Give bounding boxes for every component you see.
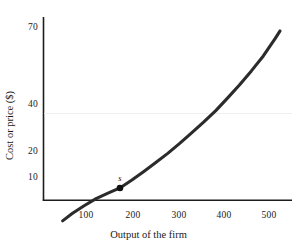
y-tick-label-10: 10 bbox=[16, 172, 38, 182]
data-point-s-marker bbox=[117, 185, 124, 192]
y-tick-label-20: 20 bbox=[16, 146, 38, 156]
y-tick-label-70: 70 bbox=[16, 22, 38, 32]
cost-curve bbox=[63, 31, 280, 221]
data-point-s-label: s bbox=[118, 173, 121, 183]
x-tick-label-200: 200 bbox=[125, 210, 140, 220]
y-axis-title: Cost or price ($) bbox=[4, 91, 15, 160]
x-tick-label-100: 100 bbox=[78, 210, 93, 220]
y-tick-label-40: 40 bbox=[16, 99, 38, 109]
x-axis-title: Output of the firm bbox=[0, 229, 297, 240]
chart-figure: 70 40 20 10 100 200 300 400 500 s Output… bbox=[0, 0, 297, 243]
chart-plot-area bbox=[0, 0, 297, 243]
x-tick-label-400: 400 bbox=[216, 210, 231, 220]
x-tick-label-300: 300 bbox=[171, 210, 186, 220]
x-tick-label-500: 500 bbox=[261, 210, 276, 220]
